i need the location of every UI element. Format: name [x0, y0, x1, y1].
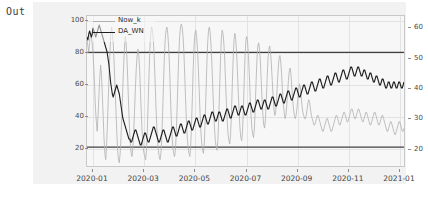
right-axis-tick-label: 30: [414, 114, 423, 122]
left-axis-tick-mark: [85, 116, 88, 117]
right-axis-tick-label: 40: [414, 84, 423, 92]
left-axis-tick-label: 100: [71, 16, 84, 24]
legend-color-swatch: [93, 32, 115, 33]
left-axis-tick-label: 60: [75, 80, 84, 88]
x-axis-tick-mark: [399, 169, 400, 172]
x-axis-tick-mark: [92, 169, 93, 172]
x-axis-tick-label: 2021-01: [383, 174, 414, 183]
x-axis-tick-label: 2020-07: [230, 174, 261, 183]
left-axis-tick-mark: [85, 84, 88, 85]
x-axis-tick-label: 2020-03: [128, 174, 159, 183]
x-axis-tick-mark: [348, 169, 349, 172]
left-axis-tick-mark: [85, 52, 88, 53]
legend-label: DA_WN: [118, 27, 144, 35]
legend-item: DA_WN: [93, 27, 155, 38]
legend-label: Now_k: [118, 16, 141, 24]
right-axis-tick-mark: [408, 88, 411, 89]
right-axis-tick-label: 60: [414, 23, 423, 31]
x-axis-tick-label: 2020-11: [332, 174, 363, 183]
right-axis-tick-labels: 2030405060: [408, 15, 428, 167]
x-axis-tick-label: 2020-05: [179, 174, 210, 183]
legend-color-swatch: [93, 21, 115, 22]
x-axis-tick-mark: [194, 169, 195, 172]
left-axis-tick-labels: 20406080100: [66, 15, 84, 167]
right-axis-tick-mark: [408, 149, 411, 150]
legend-item: Now_k: [93, 16, 155, 27]
right-axis-tick-label: 20: [414, 145, 423, 153]
left-axis-tick-mark: [85, 20, 88, 21]
x-axis-tick-mark: [297, 169, 298, 172]
x-axis-tick-mark: [246, 169, 247, 172]
chart-legend: Now_kDA_WN: [93, 16, 155, 42]
x-axis-tick-label: 2020-09: [281, 174, 312, 183]
data-series-line: [87, 24, 404, 163]
left-axis-tick-label: 80: [75, 48, 84, 56]
figure-canvas: 20406080100 2030405060 2020-012020-03202…: [33, 2, 406, 184]
output-prompt-label: Out: [6, 6, 26, 17]
left-axis-tick-mark: [85, 148, 88, 149]
right-axis-tick-mark: [408, 27, 411, 28]
x-axis-tick-label: 2020-01: [76, 174, 107, 183]
x-axis-tick-labels: 2020-012020-032020-052020-072020-092020-…: [86, 169, 405, 185]
right-axis-tick-mark: [408, 118, 411, 119]
right-axis-tick-label: 50: [414, 54, 423, 62]
x-axis-tick-mark: [143, 169, 144, 172]
left-axis-tick-label: 40: [75, 112, 84, 120]
right-axis-tick-mark: [408, 58, 411, 59]
left-axis-tick-label: 20: [75, 144, 84, 152]
